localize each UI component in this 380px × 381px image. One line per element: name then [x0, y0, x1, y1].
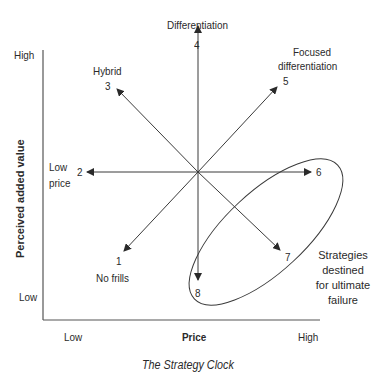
strategy-1-label: No frills [96, 271, 129, 285]
arrow-7 [198, 172, 280, 250]
strategy-4-number: 4 [194, 38, 200, 52]
failure-label-line4: failure [308, 293, 378, 308]
failure-zone-label: Strategies destined for ultimate failure [308, 248, 378, 308]
axes [43, 50, 320, 320]
arrow-5-focused-differentiation [198, 87, 277, 172]
y-axis-title: Perceived added value [14, 139, 26, 258]
x-axis-low-label: Low [64, 330, 82, 344]
figure-caption: The Strategy Clock [142, 358, 234, 372]
strategy-1-number: 1 [116, 254, 122, 268]
strategy-3-label: Hybrid [93, 64, 122, 78]
x-axis-title: Price [182, 330, 206, 344]
strategy-2-number: 2 [77, 165, 83, 179]
strategy-5-label-line1: Focused [293, 45, 331, 59]
strategy-3-number: 3 [105, 79, 111, 93]
strategy-4-label: Differentiation [167, 18, 228, 32]
y-axis-high-label: High [14, 48, 34, 62]
arrow-3-hybrid [117, 89, 198, 172]
y-axis-low-label: Low [19, 290, 37, 304]
strategy-6-number: 6 [316, 165, 322, 179]
failure-label-line1: Strategies [308, 248, 378, 263]
failure-label-line3: for ultimate [308, 278, 378, 293]
arrow-1-no-frills [124, 172, 198, 251]
strategy-7-number: 7 [285, 250, 291, 264]
x-axis-high-label: High [298, 330, 318, 344]
strategy-5-number: 5 [283, 74, 289, 88]
failure-label-line2: destined [308, 263, 378, 278]
strategy-2-label-line1: Low [49, 160, 67, 174]
strategy-2-label-line2: price [49, 176, 70, 190]
strategy-5-label-line2: differentiation [278, 59, 337, 73]
strategy-8-number: 8 [195, 286, 201, 300]
